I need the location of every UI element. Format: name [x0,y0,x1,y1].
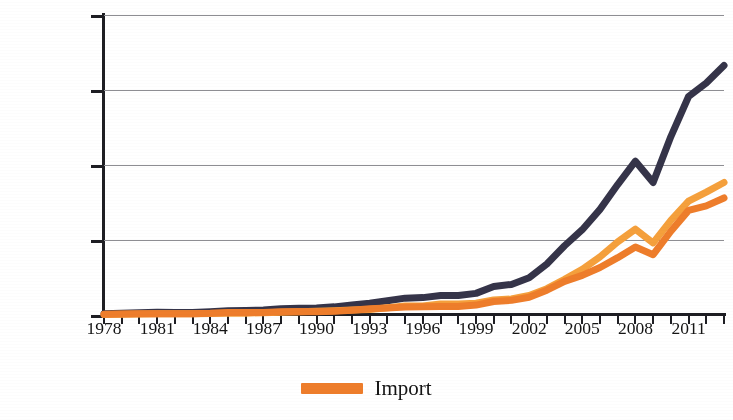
x-axis-label-1990: 1990 [299,320,334,338]
x-tick-2013 [723,315,725,324]
x-axis-label-2011: 2011 [671,320,705,338]
line-chart: 5000000 3750000 2500000 1250000 0 197819… [0,0,733,420]
y-tick-5000000 [91,15,104,18]
series-layer [104,15,724,315]
x-axis-label-1987: 1987 [246,320,281,338]
y-tick-1250000 [91,240,104,243]
series-line-total [104,66,724,314]
x-axis-label-1984: 1984 [193,320,228,338]
chart-legend: Import [0,378,733,399]
x-axis-label-1999: 1999 [459,320,494,338]
y-tick-3750000 [91,90,104,93]
legend-label-import: Import [374,378,431,399]
plot-area [104,15,724,315]
y-tick-2500000 [91,165,104,168]
x-axis-label-1996: 1996 [405,320,440,338]
x-axis-label-2008: 2008 [618,320,653,338]
x-axis-label-1993: 1993 [352,320,387,338]
legend-swatch-import [301,383,363,394]
x-axis-label-1978: 1978 [87,320,122,338]
x-axis-label-2005: 2005 [565,320,600,338]
x-axis-label-1981: 1981 [140,320,175,338]
x-axis-label-2002: 2002 [512,320,547,338]
legend-item-import[interactable]: Import [301,378,431,399]
